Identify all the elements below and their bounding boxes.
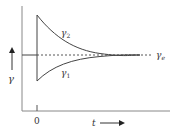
y-axis-label: γ <box>8 73 14 84</box>
x-zero-label: 0 <box>34 116 40 126</box>
chart: 0 γ2 γ1 γe γ t <box>0 0 172 131</box>
x-axis-label: t <box>92 118 96 128</box>
gamma1-label: γ1 <box>61 68 70 79</box>
gamma2-label: γ2 <box>61 28 70 39</box>
x-arrow-head-icon <box>119 120 125 126</box>
gamma-e-label: γe <box>156 50 165 61</box>
y-arrow-head-icon <box>9 47 15 53</box>
gamma1-curve <box>37 55 140 81</box>
gamma2-curve <box>37 15 140 56</box>
